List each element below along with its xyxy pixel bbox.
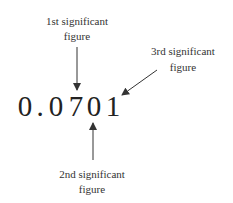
label-third-line1: 3rd significant <box>151 45 215 57</box>
digit-3: 0 <box>87 90 102 122</box>
diagram-svg: 1st significant figure 3rd significant f… <box>0 0 233 203</box>
digit-4: 1 <box>106 90 121 122</box>
significant-figures-diagram: 1st significant figure 3rd significant f… <box>0 0 233 203</box>
digit-0: 0 <box>18 90 33 122</box>
label-third-line2: figure <box>170 61 196 73</box>
label-first-line1: 1st significant <box>46 15 108 27</box>
digit-1: 0 <box>49 90 64 122</box>
arrow-third-icon <box>122 70 157 95</box>
label-first-line2: figure <box>64 30 90 42</box>
digit-2: 7 <box>69 90 84 122</box>
label-second-line2: figure <box>79 183 105 195</box>
decimal-point: . <box>36 90 43 122</box>
label-second-line1: 2nd significant <box>59 168 125 180</box>
